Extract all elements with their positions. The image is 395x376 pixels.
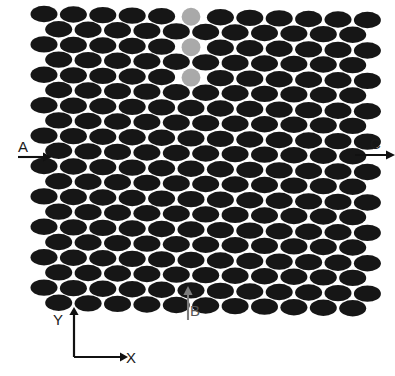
- lattice-rod: [266, 132, 293, 148]
- lattice-rod: [45, 203, 72, 219]
- lattice-rod: [325, 285, 352, 301]
- lattice-rod: [163, 23, 190, 39]
- lattice-rod: [325, 11, 352, 27]
- lattice-rod: [119, 99, 146, 115]
- lattice-rod: [280, 238, 307, 254]
- lattice-rod: [60, 219, 87, 235]
- lattice-rod: [207, 161, 234, 177]
- lattice-rod: [163, 145, 190, 161]
- lattice-rod: [133, 266, 160, 282]
- lattice-rod: [354, 42, 381, 58]
- lattice-rod: [236, 10, 263, 26]
- lattice-rod: [251, 55, 278, 71]
- lattice-rod: [178, 130, 205, 146]
- lattice-rod: [104, 235, 131, 251]
- lattice-rod: [104, 83, 131, 99]
- lattice-rod: [163, 114, 190, 130]
- lattice-rod: [251, 86, 278, 102]
- lattice-rod: [178, 191, 205, 207]
- lattice-rod: [222, 207, 249, 223]
- lattice-rod: [295, 224, 322, 240]
- lattice-rod: [31, 36, 58, 52]
- lattice-rod: [89, 281, 116, 297]
- lattice-rod: [310, 26, 337, 42]
- lattice-rod: [163, 297, 190, 313]
- lattice-rod: [89, 129, 116, 145]
- lattice-rod: [339, 27, 366, 43]
- lattice-rod: [325, 255, 352, 271]
- lattice-rod: [354, 225, 381, 241]
- lattice-rod: [60, 250, 87, 266]
- lattice-rod: [133, 23, 160, 39]
- lattice-rod: [236, 70, 263, 86]
- lattice-rod: [104, 174, 131, 190]
- lattice-rod: [45, 234, 72, 250]
- lattice-rod: [354, 255, 381, 271]
- lattice-rod: [31, 249, 58, 265]
- lattice-rod: [354, 285, 381, 301]
- lattice-rod: [339, 209, 366, 225]
- lattice-rod: [310, 117, 337, 133]
- lattice-rod: [104, 205, 131, 221]
- lattice-rod: [280, 56, 307, 72]
- lattice-rod: [192, 54, 219, 70]
- lattice-rod: [104, 113, 131, 129]
- lattice-rod: [339, 118, 366, 134]
- lattice-rod: [75, 265, 102, 281]
- lattice-rod: [354, 73, 381, 89]
- lattice-rod: [45, 173, 72, 189]
- lattice-rod: [45, 112, 72, 128]
- lattice-rod: [75, 22, 102, 38]
- lattice-rod: [251, 146, 278, 162]
- lattice-rod: [148, 8, 175, 24]
- lattice-rod: [266, 41, 293, 57]
- lattice-rod: [295, 193, 322, 209]
- lattice-rod: [236, 283, 263, 299]
- lattice-rod: [148, 251, 175, 267]
- lattice-rod: [31, 127, 58, 143]
- lattice-rod: [222, 55, 249, 71]
- port-label-c: C: [370, 136, 381, 151]
- lattice-rod: [60, 98, 87, 114]
- lattice-rod: [148, 38, 175, 54]
- lattice-rod: [295, 254, 322, 270]
- lattice-rod: [163, 54, 190, 70]
- lattice-rod: [104, 22, 131, 38]
- lattice-rod: [207, 100, 234, 116]
- lattice-rod: [295, 41, 322, 57]
- lattice-rod: [207, 283, 234, 299]
- lattice-rod: [163, 84, 190, 100]
- lattice-rod: [280, 147, 307, 163]
- lattice-rod: [75, 82, 102, 98]
- lattice-rod: [89, 68, 116, 84]
- lattice-rod: [207, 131, 234, 147]
- lattice-rod: [192, 176, 219, 192]
- lattice-rod: [89, 220, 116, 236]
- lattice-rod: [60, 67, 87, 83]
- lattice-rod: [192, 85, 219, 101]
- lattice-rod: [75, 174, 102, 190]
- lattice-rod: [325, 103, 352, 119]
- lattice-rod: [75, 234, 102, 250]
- axis-label-x: X: [126, 350, 136, 365]
- lattice-rod: [295, 11, 322, 27]
- lattice-rod: [89, 250, 116, 266]
- lattice-rod: [178, 252, 205, 268]
- lattice-rod: [75, 295, 102, 311]
- lattice-rod: [119, 68, 146, 84]
- lattice-rod: [192, 24, 219, 40]
- lattice-rod: [133, 235, 160, 251]
- lattice-rod: [266, 162, 293, 178]
- lattice-rod: [45, 51, 72, 67]
- lattice-rod: [60, 6, 87, 22]
- lattice-rod: [266, 284, 293, 300]
- lattice-rod: [60, 37, 87, 53]
- lattice-rod: [60, 158, 87, 174]
- lattice-rod: [133, 296, 160, 312]
- lattice-rod: [178, 282, 205, 298]
- lattice-rod: [280, 25, 307, 41]
- lattice-rod: [207, 252, 234, 268]
- lattice-rod: [222, 85, 249, 101]
- lattice-rod: [119, 281, 146, 297]
- lattice-rod: [89, 37, 116, 53]
